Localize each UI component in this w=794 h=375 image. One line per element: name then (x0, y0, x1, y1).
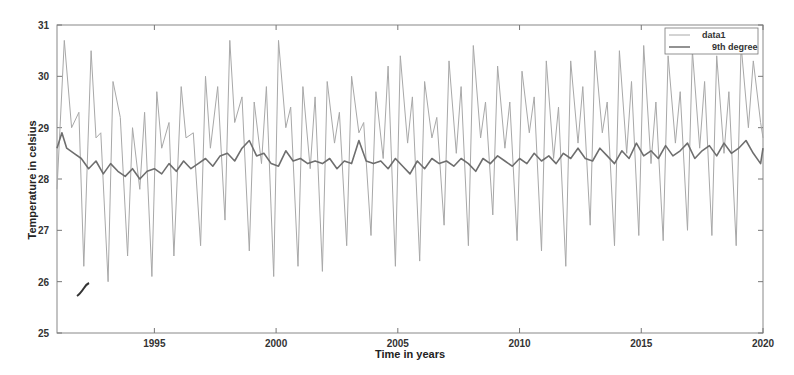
x-tick-label: 2015 (630, 338, 653, 349)
legend: data1 9th degree (665, 28, 758, 54)
x-tick-label: 2000 (265, 338, 288, 349)
y-tick-label: 27 (38, 225, 50, 236)
line-chart: 25262728293031 199520002005201020152020 … (0, 0, 794, 375)
x-tick-label: 2020 (752, 338, 775, 349)
y-tick-label: 29 (38, 123, 50, 134)
y-axis-label: Temperature in celsius (26, 120, 38, 239)
x-tick-label: 1995 (143, 338, 166, 349)
plot-area (57, 25, 763, 333)
x-tick-label: 2010 (508, 338, 531, 349)
y-tick-label: 30 (38, 71, 50, 82)
legend-label-9th-degree: 9th degree (712, 42, 758, 52)
legend-label-data1: data1 (702, 30, 726, 40)
y-tick-label: 28 (38, 174, 50, 185)
y-tick-label: 31 (38, 20, 50, 31)
y-tick-label: 26 (38, 277, 50, 288)
x-axis-label: Time in years (375, 348, 445, 360)
y-tick-label: 25 (38, 328, 50, 339)
